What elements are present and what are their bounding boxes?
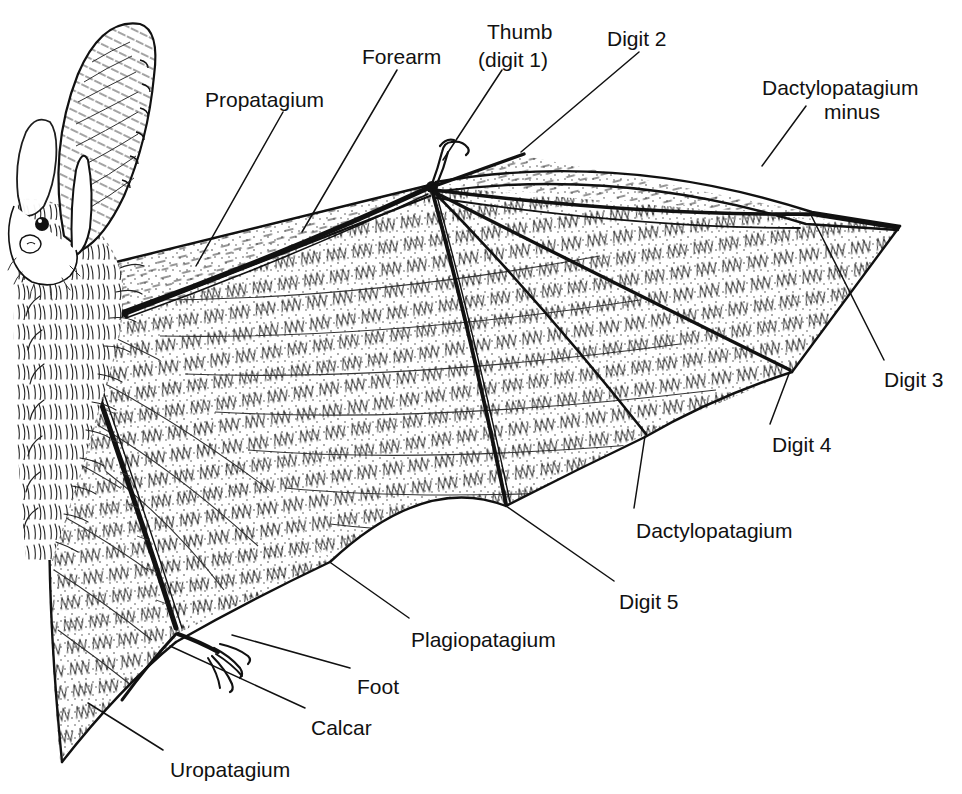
label-plagiopatagium: Plagiopatagium [411,628,556,651]
label-calcar: Calcar [311,716,372,739]
label-foot: Foot [357,675,399,698]
eye [35,217,49,231]
label-dactylopatagium-minus-line1: Dactylopatagium [762,76,918,99]
label-thumb-line1: Thumb [487,20,552,43]
label-uropatagium: Uropatagium [170,758,290,781]
label-dactylopatagium: Dactylopatagium [636,519,792,542]
label-dactylopatagium-minus-line2: minus [824,100,880,123]
bat-illustration [0,0,962,794]
label-digit-3: Digit 3 [884,368,944,391]
label-thumb-line2: (digit 1) [478,48,548,71]
label-propagatium: Propatagium [205,88,324,111]
label-digit-4: Digit 4 [772,433,832,456]
bat-wing-anatomy-figure: Propatagium Forearm Thumb (digit 1) Digi… [0,0,962,794]
label-digit-2: Digit 2 [607,27,667,50]
label-forearm: Forearm [362,45,441,68]
label-digit-5: Digit 5 [619,590,679,613]
